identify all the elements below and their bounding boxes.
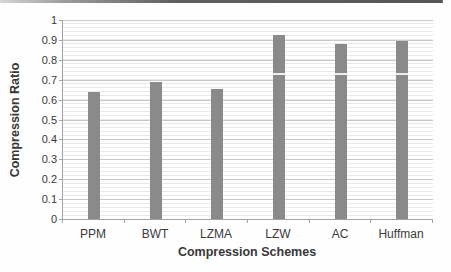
y-tick-label: 0.5: [0, 113, 57, 127]
y-tick-label: 0.6: [0, 93, 57, 107]
bar-ac: [335, 44, 347, 219]
x-axis-tick: [309, 220, 310, 223]
x-axis-tick: [432, 220, 433, 223]
major-gridline: [63, 60, 433, 61]
y-axis-tick: [59, 139, 62, 140]
bar-lzw: [273, 35, 285, 219]
y-axis-tick: [59, 100, 62, 101]
scanned-bar-chart-figure: Compression Ratio 00.10.20.30.40.50.60.7…: [0, 0, 451, 272]
y-axis-tick: [59, 80, 62, 81]
major-gridline: [63, 20, 433, 21]
x-category-label: PPM: [58, 227, 128, 241]
y-tick-label: 0.9: [0, 33, 57, 47]
y-tick-label: 0.3: [0, 152, 57, 166]
x-axis-tick: [247, 220, 248, 223]
x-category-label: AC: [305, 227, 375, 241]
y-axis-tick: [59, 199, 62, 200]
bar-huffman: [396, 41, 408, 219]
bar-bwt: [150, 82, 162, 219]
x-axis-tick: [185, 220, 186, 223]
x-axis-title: Compression Schemes: [62, 245, 432, 259]
major-gridline: [63, 40, 433, 41]
major-gridline: [63, 199, 433, 200]
scan-page-rule: [0, 0, 443, 3]
x-category-label: LZW: [243, 227, 313, 241]
y-axis-tick: [59, 60, 62, 61]
x-axis-tick: [124, 220, 125, 223]
y-tick-label: 0.1: [0, 192, 57, 206]
x-axis-tick: [62, 220, 63, 223]
major-gridline: [63, 80, 433, 81]
x-category-label: LZMA: [181, 227, 251, 241]
x-axis-tick: [370, 220, 371, 223]
bar-lzma: [211, 89, 223, 219]
y-tick-label: 0.8: [0, 53, 57, 67]
y-axis-tick: [59, 20, 62, 21]
x-category-label: Huffman: [366, 227, 436, 241]
major-gridline: [63, 179, 433, 180]
major-gridline: [63, 159, 433, 160]
y-axis-tick: [59, 179, 62, 180]
x-category-label: BWT: [120, 227, 190, 241]
major-gridline: [63, 120, 433, 121]
y-axis-tick: [59, 40, 62, 41]
y-tick-label: 0.7: [0, 73, 57, 87]
y-tick-label: 0.4: [0, 132, 57, 146]
scan-streak-artifact: [63, 73, 433, 75]
y-tick-label: 0.2: [0, 172, 57, 186]
major-gridline: [63, 139, 433, 140]
bar-ppm: [88, 92, 100, 219]
y-tick-label: 0: [0, 212, 57, 226]
y-axis-tick: [59, 159, 62, 160]
major-gridline: [63, 100, 433, 101]
y-axis-tick: [59, 120, 62, 121]
plot-area: [62, 20, 433, 220]
y-tick-label: 1: [0, 13, 57, 27]
